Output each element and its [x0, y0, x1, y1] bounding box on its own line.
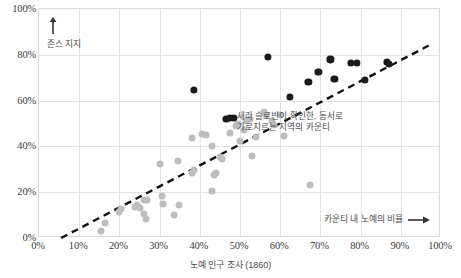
y-tick-label: 40%: [2, 140, 36, 151]
x-axis-tick-labels: 0%10%20%30%40%50%60%70%80%90%100%: [38, 240, 440, 256]
data-point: [212, 169, 219, 176]
y-axis-caption: 존스 지지: [47, 37, 81, 50]
data-point: [170, 212, 177, 219]
data-point: [102, 220, 109, 227]
data-point: [385, 60, 392, 67]
data-point: [249, 152, 256, 159]
data-point: [327, 56, 334, 63]
gridline-horizontal: [39, 146, 439, 147]
data-point: [98, 228, 105, 235]
y-tick-label: 100%: [2, 3, 36, 14]
data-point: [190, 167, 197, 174]
annotation-slobin-belt: 새라 슬로빈이 확인한, 동서로 가로지르는 지역의 카운티: [237, 111, 387, 133]
x-tick-label: 90%: [390, 240, 409, 251]
scatter-chart-figure: 0%20%40%60%80%100% 새라 슬로빈이 확인한, 동서로 가로지르…: [0, 0, 461, 278]
x-tick-label: 0%: [31, 240, 45, 251]
data-point: [331, 75, 338, 82]
data-point: [361, 76, 368, 83]
data-point: [218, 155, 225, 162]
gridline-vertical: [200, 9, 201, 236]
data-point: [226, 129, 233, 136]
plot-area: 새라 슬로빈이 확인한, 동서로 가로지르는 지역의 카운티 존스 지지 카운티…: [38, 8, 440, 237]
gridline-vertical: [119, 9, 120, 236]
x-axis-title: 노예 인구 조사 (1860): [0, 258, 461, 271]
data-point: [265, 53, 272, 60]
data-point: [253, 134, 260, 141]
x-tick-label: 60%: [270, 240, 289, 251]
x-tick-label: 30%: [149, 240, 168, 251]
gridline-horizontal: [39, 101, 439, 102]
data-point: [307, 182, 314, 189]
data-point: [202, 131, 209, 138]
x-tick-label: 70%: [310, 240, 329, 251]
x-tick-label: 10%: [69, 240, 88, 251]
x-tick-label: 100%: [428, 240, 452, 251]
data-point: [118, 206, 125, 213]
data-point: [305, 79, 312, 86]
x-tick-label: 80%: [350, 240, 369, 251]
data-point: [190, 87, 197, 94]
y-tick-label: 60%: [2, 94, 36, 105]
x-axis-caption: 카운티 내 노예의 비율: [324, 212, 403, 225]
data-point: [237, 137, 244, 144]
gridline-horizontal: [39, 192, 439, 193]
data-point: [143, 197, 150, 204]
data-point: [208, 188, 215, 195]
y-tick-label: 80%: [2, 48, 36, 59]
data-point: [188, 135, 195, 142]
data-point: [156, 160, 163, 167]
x-tick-label: 40%: [189, 240, 208, 251]
data-point: [175, 201, 182, 208]
data-point: [281, 133, 288, 140]
data-point: [158, 192, 165, 199]
y-axis-up-arrow-icon: [47, 17, 59, 35]
gridline-vertical: [401, 9, 402, 236]
x-tick-label: 50%: [230, 240, 249, 251]
data-point: [159, 200, 166, 207]
data-point: [174, 158, 181, 165]
data-point: [208, 143, 215, 150]
y-tick-label: 20%: [2, 186, 36, 197]
gridline-horizontal: [39, 55, 439, 56]
data-point: [142, 215, 149, 222]
x-axis-right-arrow-icon: [407, 214, 431, 226]
x-tick-label: 20%: [109, 240, 128, 251]
data-point: [353, 59, 360, 66]
y-axis-tick-labels: 0%20%40%60%80%100%: [0, 8, 36, 237]
